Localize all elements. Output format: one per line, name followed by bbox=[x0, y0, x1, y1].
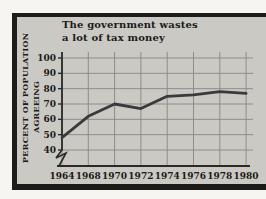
line-chart: 1009080706050401964196819701972197419761… bbox=[0, 0, 266, 199]
x-tick-label: 1970 bbox=[102, 171, 127, 181]
x-tick-label: 1974 bbox=[155, 171, 180, 181]
y-tick-label: 70 bbox=[43, 99, 56, 109]
x-tick-label: 1964 bbox=[49, 171, 74, 181]
y-tick-label: 80 bbox=[43, 84, 56, 94]
x-tick-label: 1972 bbox=[128, 171, 153, 181]
x-tick-label: 1980 bbox=[234, 171, 259, 181]
data-line bbox=[62, 92, 246, 138]
y-tick-label: 40 bbox=[43, 145, 56, 155]
axis-break-icon bbox=[56, 150, 66, 166]
scanned-page: The government wastes a lot of tax money… bbox=[0, 0, 266, 199]
x-tick-label: 1968 bbox=[76, 171, 101, 181]
x-tick-label: 1976 bbox=[181, 171, 206, 181]
x-tick-label: 1978 bbox=[207, 171, 232, 181]
y-tick-label: 100 bbox=[37, 53, 56, 63]
y-tick-label: 50 bbox=[43, 130, 56, 140]
y-tick-label: 60 bbox=[43, 114, 56, 124]
y-tick-label: 90 bbox=[43, 68, 56, 78]
